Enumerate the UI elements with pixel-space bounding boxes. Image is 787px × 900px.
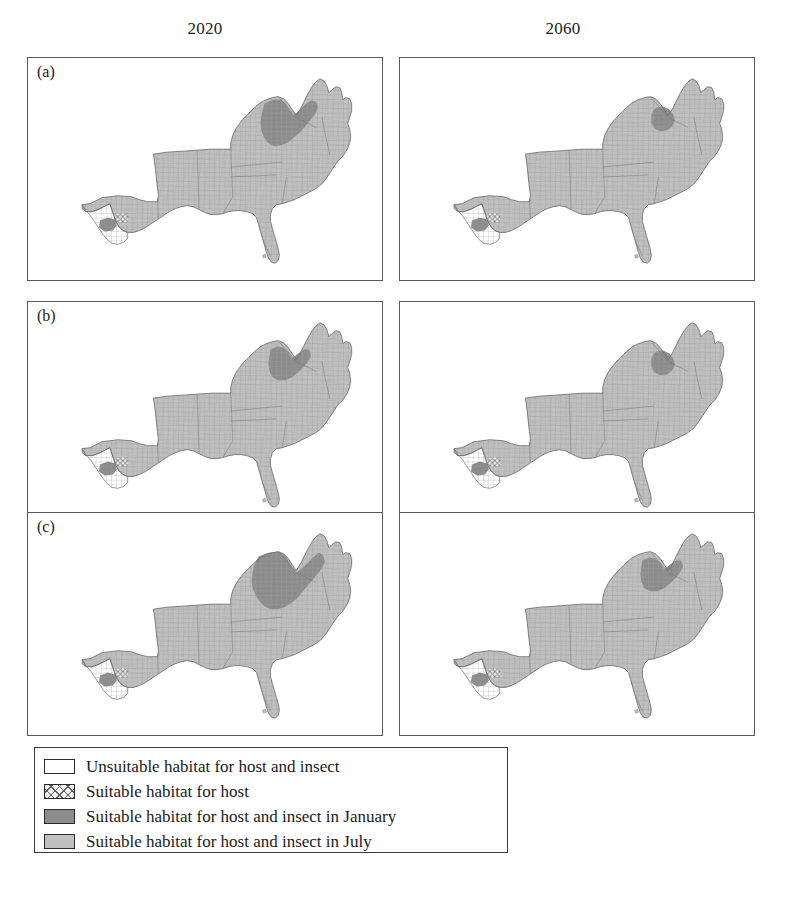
legend-box: Unsuitable habitat for host and insect S… bbox=[34, 747, 508, 853]
unsuitable-swatch bbox=[44, 759, 75, 774]
legend-label-host: Suitable habitat for host bbox=[86, 783, 249, 800]
map-a-2020 bbox=[28, 58, 382, 280]
january-swatch bbox=[44, 809, 75, 824]
legend-item-unsuitable: Unsuitable habitat for host and insect bbox=[44, 754, 497, 779]
host-hatch-swatch bbox=[44, 784, 75, 799]
map-b-2060 bbox=[400, 302, 754, 524]
legend-label-unsuitable: Unsuitable habitat for host and insect bbox=[86, 758, 340, 775]
figure-root: 2020 2060 (a) bbox=[0, 0, 787, 900]
panel-a-2020[interactable]: (a) bbox=[27, 57, 383, 281]
panel-a-2060[interactable] bbox=[399, 57, 755, 281]
panel-c-2020[interactable]: (c) bbox=[27, 512, 383, 736]
map-b-2020 bbox=[28, 302, 382, 524]
panel-b-2060[interactable] bbox=[399, 301, 755, 525]
legend-item-july: Suitable habitat for host and insect in … bbox=[44, 829, 497, 854]
map-a-2060 bbox=[400, 58, 754, 280]
column-header-2060: 2060 bbox=[503, 19, 623, 39]
panel-label-b: (b) bbox=[37, 307, 56, 325]
legend-label-july: Suitable habitat for host and insect in … bbox=[86, 833, 372, 850]
legend-label-january: Suitable habitat for host and insect in … bbox=[86, 808, 396, 825]
map-c-2020 bbox=[28, 513, 382, 735]
legend-item-host: Suitable habitat for host bbox=[44, 779, 497, 804]
map-c-2060 bbox=[400, 513, 754, 735]
legend-item-january: Suitable habitat for host and insect in … bbox=[44, 804, 497, 829]
panel-b-2020[interactable]: (b) bbox=[27, 301, 383, 525]
column-header-2020: 2020 bbox=[145, 19, 265, 39]
panel-label-c: (c) bbox=[37, 518, 55, 536]
panel-c-2060[interactable] bbox=[399, 512, 755, 736]
panel-label-a: (a) bbox=[37, 63, 55, 81]
july-swatch bbox=[44, 834, 75, 849]
